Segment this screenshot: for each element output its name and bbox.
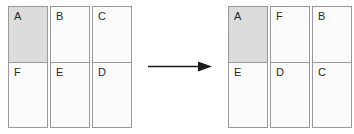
cell-label: B (56, 10, 64, 22)
after-cell-r1c0: E (229, 63, 267, 127)
before-cell-r0c2: C (93, 7, 131, 63)
cell-label: C (98, 10, 106, 22)
diagram-canvas: A F B E C D (0, 0, 354, 134)
cell-label: F (14, 66, 21, 78)
after-cell-r1c1: D (271, 63, 309, 127)
cell-label: A (234, 10, 242, 22)
cell-label: D (276, 66, 284, 78)
cell-label: C (318, 66, 326, 78)
cell-label: A (14, 10, 22, 22)
before-column-3: C D (92, 6, 132, 128)
after-cell-r1c2: C (313, 63, 351, 127)
right-arrow-icon (148, 60, 214, 73)
before-cell-r1c2: D (93, 63, 131, 127)
before-column-2: B E (50, 6, 90, 128)
cell-label: F (276, 10, 283, 22)
cell-label: D (98, 66, 106, 78)
after-column-1: A E (228, 6, 268, 128)
cell-label: E (234, 66, 242, 78)
after-cell-r0c0: A (229, 7, 267, 63)
before-grid: A F B E C D (8, 6, 132, 128)
before-cell-r0c0: A (9, 7, 47, 63)
before-cell-r0c1: B (51, 7, 89, 63)
after-cell-r0c2: B (313, 7, 351, 63)
after-grid: A E F D B C (228, 6, 352, 128)
cell-label: B (318, 10, 326, 22)
cell-label: E (56, 66, 64, 78)
before-cell-r1c0: F (9, 63, 47, 127)
before-cell-r1c1: E (51, 63, 89, 127)
after-cell-r0c1: F (271, 7, 309, 63)
after-column-3: B C (312, 6, 352, 128)
after-column-2: F D (270, 6, 310, 128)
before-column-1: A F (8, 6, 48, 128)
